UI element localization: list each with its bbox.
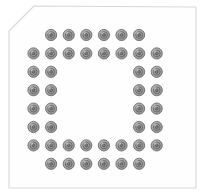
- solder-pad-h2[interactable]: [46, 158, 57, 169]
- solder-pad-a3[interactable]: [63, 29, 74, 40]
- solder-pad-b1[interactable]: [28, 48, 39, 59]
- solder-pad-b6[interactable]: [116, 48, 127, 59]
- solder-pad-a2[interactable]: [46, 29, 57, 40]
- pad-highlight: [30, 50, 33, 53]
- solder-pad-f2[interactable]: [46, 121, 57, 132]
- pad-highlight: [66, 160, 69, 163]
- solder-pad-h5[interactable]: [98, 158, 109, 169]
- pad-highlight: [83, 160, 86, 163]
- pad-highlight: [83, 50, 86, 53]
- pad-highlight: [83, 32, 86, 35]
- pad-highlight: [48, 32, 51, 35]
- pad-highlight: [154, 105, 157, 108]
- solder-pad-b2[interactable]: [46, 48, 57, 59]
- pad-highlight: [118, 160, 121, 163]
- pad-highlight: [154, 50, 157, 53]
- solder-pad-a6[interactable]: [116, 29, 127, 40]
- pad-highlight: [30, 142, 33, 145]
- pad-highlight: [48, 142, 51, 145]
- pad-highlight: [66, 32, 69, 35]
- solder-pad-d2[interactable]: [46, 85, 57, 96]
- solder-pad-c8[interactable]: [151, 66, 162, 77]
- pad-highlight: [48, 160, 51, 163]
- pad-highlight: [101, 32, 104, 35]
- pad-highlight: [136, 124, 139, 127]
- solder-pad-e2[interactable]: [46, 103, 57, 114]
- solder-pad-h7[interactable]: [134, 158, 145, 169]
- pad-highlight: [30, 68, 33, 71]
- pad-highlight: [118, 32, 121, 35]
- solder-pad-f8[interactable]: [151, 121, 162, 132]
- pad-highlight: [118, 50, 121, 53]
- pad-highlight: [48, 124, 51, 127]
- solder-pad-g8[interactable]: [151, 140, 162, 151]
- solder-pad-g4[interactable]: [81, 140, 92, 151]
- pad-highlight: [154, 68, 157, 71]
- pad-highlight: [30, 124, 33, 127]
- solder-pad-a4[interactable]: [81, 29, 92, 40]
- solder-pad-g5[interactable]: [98, 140, 109, 151]
- solder-pad-h3[interactable]: [63, 158, 74, 169]
- pad-highlight: [48, 68, 51, 71]
- pad-highlight: [136, 68, 139, 71]
- pad-highlight: [154, 142, 157, 145]
- pad-highlight: [30, 87, 33, 90]
- solder-pad-a5[interactable]: [98, 29, 109, 40]
- pad-highlight: [136, 87, 139, 90]
- pad-highlight: [30, 105, 33, 108]
- pad-highlight: [136, 50, 139, 53]
- solder-pad-g6[interactable]: [116, 140, 127, 151]
- solder-pad-c7[interactable]: [134, 66, 145, 77]
- solder-pad-b3[interactable]: [63, 48, 74, 59]
- bga-footprint-viewport: [0, 0, 205, 195]
- solder-pad-b5[interactable]: [98, 48, 109, 59]
- solder-pad-g7[interactable]: [134, 140, 145, 151]
- pad-highlight: [83, 142, 86, 145]
- solder-pad-g2[interactable]: [46, 140, 57, 151]
- pad-highlight: [101, 142, 104, 145]
- solder-pad-a7[interactable]: [134, 29, 145, 40]
- solder-pad-g1[interactable]: [28, 140, 39, 151]
- pad-highlight: [48, 87, 51, 90]
- pad-highlight: [66, 142, 69, 145]
- pad-highlight: [136, 142, 139, 145]
- pad-highlight: [101, 50, 104, 53]
- solder-pad-b4[interactable]: [81, 48, 92, 59]
- solder-pad-f1[interactable]: [28, 121, 39, 132]
- solder-pad-d8[interactable]: [151, 85, 162, 96]
- pad-highlight: [136, 32, 139, 35]
- solder-pad-h4[interactable]: [81, 158, 92, 169]
- pad-highlight: [66, 50, 69, 53]
- pad-highlight: [118, 142, 121, 145]
- solder-pad-b7[interactable]: [134, 48, 145, 59]
- solder-pad-e8[interactable]: [151, 103, 162, 114]
- pad-highlight: [48, 50, 51, 53]
- solder-pad-g3[interactable]: [63, 140, 74, 151]
- pad-highlight: [136, 105, 139, 108]
- pad-highlight: [48, 105, 51, 108]
- pad-highlight: [136, 160, 139, 163]
- solder-pad-f7[interactable]: [134, 121, 145, 132]
- solder-pad-h6[interactable]: [116, 158, 127, 169]
- pad-highlight: [101, 160, 104, 163]
- solder-pad-d1[interactable]: [28, 85, 39, 96]
- package-drawing: [0, 0, 205, 195]
- pad-highlight: [154, 87, 157, 90]
- solder-pad-c2[interactable]: [46, 66, 57, 77]
- pad-highlight: [154, 124, 157, 127]
- solder-pad-d7[interactable]: [134, 85, 145, 96]
- solder-pad-b8[interactable]: [151, 48, 162, 59]
- solder-pad-c1[interactable]: [28, 66, 39, 77]
- solder-pad-e7[interactable]: [134, 103, 145, 114]
- solder-pad-e1[interactable]: [28, 103, 39, 114]
